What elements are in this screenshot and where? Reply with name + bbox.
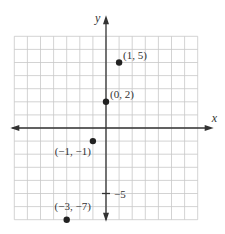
point-label: (1, 5)	[123, 49, 147, 62]
y-axis-down-arrow	[103, 213, 109, 222]
points: (1, 5)(0, 2)(−1, −1)(−3, −7)	[55, 49, 148, 223]
point-label: (0, 2)	[110, 88, 134, 101]
data-point	[63, 217, 69, 223]
x-axis-right-arrow	[205, 125, 214, 131]
point-label: (−3, −7)	[55, 200, 92, 213]
data-point	[116, 59, 122, 65]
data-point	[90, 138, 96, 144]
data-point	[103, 99, 109, 105]
y-axis-label: y	[94, 11, 101, 25]
x-axis-left-arrow	[10, 125, 19, 131]
y-axis-up-arrow	[103, 15, 109, 24]
x-axis-label: x	[211, 111, 218, 125]
y-tick-label: −5	[114, 188, 126, 200]
point-label: (−1, −1)	[55, 145, 92, 158]
coordinate-plane: xy −5 (1, 5)(0, 2)(−1, −1)(−3, −7)	[0, 0, 225, 234]
